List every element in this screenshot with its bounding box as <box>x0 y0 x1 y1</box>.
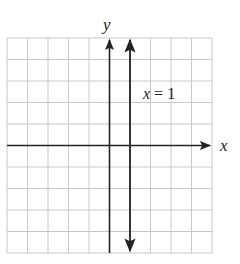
y-axis-label: y <box>101 15 111 34</box>
line-equation-label: x = 1 <box>142 85 175 102</box>
x-axis-label: x <box>219 136 228 155</box>
coordinate-graph: y x x = 1 <box>0 0 240 264</box>
